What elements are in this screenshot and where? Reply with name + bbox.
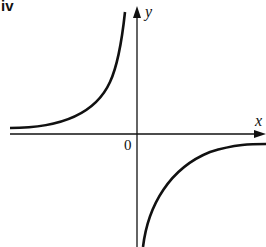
- origin-label: 0: [124, 137, 132, 154]
- x-axis: [10, 130, 266, 138]
- graph: [0, 0, 266, 247]
- curve-lower-right: [143, 144, 266, 247]
- x-axis-label: x: [255, 112, 262, 130]
- panel-label: iv: [1, 0, 14, 14]
- y-axis-arrow-icon: [133, 6, 141, 18]
- y-axis-label: y: [145, 3, 152, 21]
- y-axis: [133, 6, 141, 247]
- x-axis-arrow-icon: [254, 130, 266, 138]
- curve-upper-left: [10, 12, 125, 128]
